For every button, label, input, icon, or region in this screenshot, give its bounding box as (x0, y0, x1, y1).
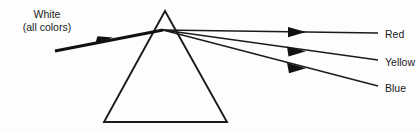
yellow-ray-label: Yellow (385, 57, 415, 68)
red-ray-arrowhead (288, 27, 306, 37)
blue-ray-line (163, 30, 378, 86)
blue-ray-label: Blue (385, 83, 406, 94)
yellow-ray-line (163, 30, 378, 60)
white-light-source-label: White (all colors) (10, 8, 84, 34)
source-label-line2: (all colors) (10, 21, 84, 34)
red-ray-label: Red (385, 29, 404, 40)
source-label-line1: White (10, 8, 84, 21)
prism-shape (104, 11, 227, 122)
prism-dispersion-diagram: White (all colors) Red Yellow Blue (0, 0, 420, 133)
red-ray-line (163, 30, 378, 33)
